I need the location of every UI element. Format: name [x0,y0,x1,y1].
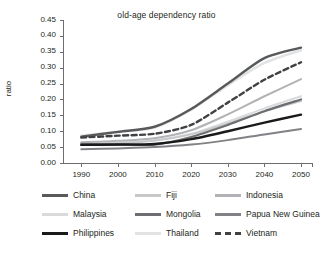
y-tick-mark [60,147,63,148]
x-tick-mark [228,163,229,167]
y-tick-mark [60,163,63,164]
x-tick-label: 2040 [247,171,281,179]
y-tick-mark [60,131,63,132]
legend-item-china[interactable]: China [42,186,95,204]
legend-label: Thailand [166,229,199,238]
x-tick-mark [81,163,82,167]
y-tick-label: 0.45 [26,16,56,24]
plot-area: old-age dependency ratio ratio 0.000.050… [0,0,333,178]
legend-item-malaysia[interactable]: Malaysia [42,205,107,223]
y-tick-mark [60,52,63,53]
legend-label: Malaysia [73,210,107,219]
legend-label: China [73,191,95,200]
x-axis-end-tick [312,163,313,167]
legend-swatch [215,213,241,216]
chart-plot-lines [0,0,333,178]
y-tick-mark [60,84,63,85]
x-tick-label: 1990 [64,171,98,179]
y-tick-label: 0.35 [26,47,56,55]
y-tick-mark [60,99,63,100]
x-tick-mark [118,163,119,167]
x-tick-mark [155,163,156,167]
y-tick-label: 0.25 [26,79,56,87]
x-tick-label: 2030 [211,171,245,179]
legend-swatch [42,232,68,235]
legend-row: MalaysiaMongoliaPapua New Guinea [0,205,333,223]
x-tick-label: 2020 [174,171,208,179]
x-tick-mark [301,163,302,167]
legend-label: Papua New Guinea [246,210,320,219]
x-tick-mark [191,163,192,167]
y-tick-label: 0.10 [26,127,56,135]
legend-swatch [42,194,68,197]
x-tick-label: 2000 [101,171,135,179]
y-tick-label: 0.20 [26,95,56,103]
y-tick-label: 0.30 [26,63,56,71]
legend-item-papua-new-guinea[interactable]: Papua New Guinea [215,205,320,223]
y-tick-mark [60,115,63,116]
legend-item-mongolia[interactable]: Mongolia [135,205,201,223]
x-tick-label: 2010 [138,171,172,179]
legend-swatch [135,194,161,197]
legend-label: Vietnam [246,229,277,238]
y-tick-label: 0.40 [26,31,56,39]
y-axis-line [63,20,64,163]
y-tick-mark [60,36,63,37]
x-axis-line [63,163,312,164]
legend-item-philippines[interactable]: Philippines [42,224,114,242]
legend-item-indonesia[interactable]: Indonesia [215,186,283,204]
series-line-vietnam [81,62,301,137]
legend-label: Philippines [73,229,114,238]
legend-swatch [215,232,241,235]
legend-label: Mongolia [166,210,201,219]
chart-figure: old-age dependency ratio ratio 0.000.050… [0,0,333,263]
legend-label: Fiji [166,191,177,200]
y-tick-mark [60,68,63,69]
chart-legend: ChinaFijiIndonesiaMalaysiaMongoliaPapua … [0,186,333,263]
legend-row: PhilippinesThailandVietnam [0,224,333,242]
y-tick-label: 0.15 [26,111,56,119]
legend-item-thailand[interactable]: Thailand [135,224,199,242]
y-tick-label: 0.00 [26,159,56,167]
legend-swatch [135,213,161,216]
legend-swatch [135,232,161,235]
legend-swatch [42,213,68,216]
legend-label: Indonesia [246,191,283,200]
legend-item-vietnam[interactable]: Vietnam [215,224,277,242]
legend-row: ChinaFijiIndonesia [0,186,333,204]
y-tick-label: 0.05 [26,143,56,151]
y-tick-mark [60,20,63,21]
x-tick-label: 2050 [284,171,318,179]
x-tick-mark [264,163,265,167]
legend-item-fiji[interactable]: Fiji [135,186,177,204]
legend-swatch [215,194,241,197]
